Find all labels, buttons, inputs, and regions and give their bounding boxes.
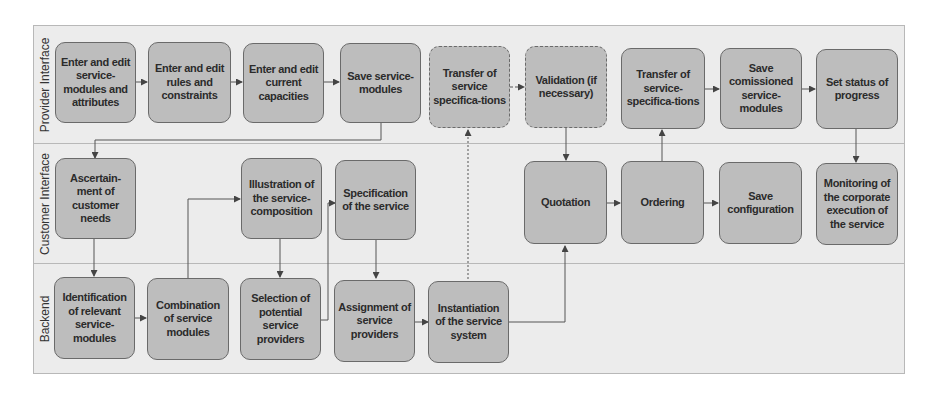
node-validation[interactable]: Validation (if necessary)	[525, 46, 607, 128]
node-transfer-service-specifications[interactable]: Transfer of service-specifica-tions	[621, 48, 705, 129]
node-quotation[interactable]: Quotation	[524, 161, 607, 244]
lane-label: Backend	[34, 264, 56, 373]
node-specification-service[interactable]: Specification of the service	[335, 160, 416, 240]
node-illustration-service-composition[interactable]: Illustration of the service-composition	[241, 158, 322, 239]
lane-label: Customer Interface	[34, 144, 56, 263]
lane-label: Provider Interface	[34, 26, 56, 143]
node-save-configuration[interactable]: Save configuration	[719, 162, 802, 244]
node-transfer-service-specifications-dashed[interactable]: Transfer of service specifica-tions	[429, 46, 510, 128]
node-instantiation-service-system[interactable]: Instantiation of the service system	[428, 281, 509, 363]
node-set-status-progress[interactable]: Set status of progress	[816, 49, 898, 129]
node-monitoring-execution[interactable]: Monitoring of the corporate execution of…	[816, 163, 898, 245]
node-ordering[interactable]: Ordering	[621, 161, 704, 244]
node-save-comissioned-modules[interactable]: Save comissioned service-modules	[720, 48, 802, 129]
node-ascertainment-customer-needs[interactable]: Ascertain-ment of customer needs	[55, 158, 136, 239]
node-enter-edit-service-modules[interactable]: Enter and edit service-modules and attri…	[55, 42, 136, 123]
node-selection-potential-providers[interactable]: Selection of potential service providers	[240, 278, 321, 360]
node-save-service-modules[interactable]: Save service-modules	[340, 43, 421, 123]
node-combination-service-modules[interactable]: Combination of service modules	[147, 278, 229, 360]
node-identification-relevant-modules[interactable]: Identification of relevant service-modul…	[54, 277, 135, 359]
node-enter-edit-rules[interactable]: Enter and edit rules and constraints	[148, 42, 231, 123]
node-enter-edit-capacities[interactable]: Enter and edit current capacities	[243, 43, 324, 123]
node-assignment-service-providers[interactable]: Assignment of service providers	[334, 280, 415, 362]
swimlane-diagram: Provider Interface Customer Interface Ba…	[0, 0, 938, 395]
